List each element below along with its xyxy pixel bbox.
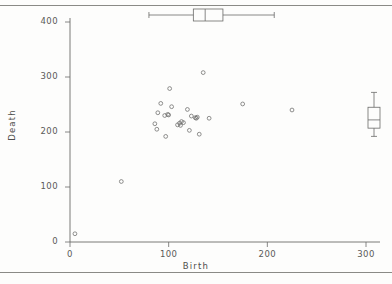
scatter-point xyxy=(153,122,157,126)
scatter-point xyxy=(201,71,205,75)
x-axis-title: Birth xyxy=(0,261,392,271)
y-axis-title: Death xyxy=(7,95,17,155)
scatter-point xyxy=(207,116,211,120)
scatter-point xyxy=(186,108,190,112)
y-tick-label-200: 200 xyxy=(24,126,58,136)
scatter-point xyxy=(241,102,245,106)
y-tick-label-400: 400 xyxy=(24,16,58,26)
boxplot-y-box xyxy=(368,107,380,128)
scatter-point xyxy=(197,132,201,136)
scatter-point xyxy=(159,102,163,106)
x-tick-label-200: 200 xyxy=(247,249,287,259)
x-tick-label-300: 300 xyxy=(346,249,386,259)
scatter-point xyxy=(73,232,77,236)
scatter-point xyxy=(189,114,193,118)
scatter-point xyxy=(164,135,168,139)
scatter-point xyxy=(170,105,174,109)
scatter-point xyxy=(290,108,294,112)
scatter-point xyxy=(187,128,191,132)
y-tick-label-300: 300 xyxy=(24,71,58,81)
x-tick-label-100: 100 xyxy=(149,249,189,259)
y-tick-label-0: 0 xyxy=(24,236,58,246)
scatter-point xyxy=(119,180,123,184)
boxplot-x-box xyxy=(193,9,223,21)
x-tick-label-0: 0 xyxy=(50,249,90,259)
scatter-point xyxy=(155,127,159,131)
scatter-point xyxy=(168,87,172,91)
scatter-point xyxy=(156,111,160,115)
y-tick-label-100: 100 xyxy=(24,181,58,191)
figure-canvas: Birth Death 01002003004000100200300 xyxy=(0,0,392,284)
plot-svg xyxy=(0,0,392,284)
scatter-points xyxy=(73,71,294,236)
